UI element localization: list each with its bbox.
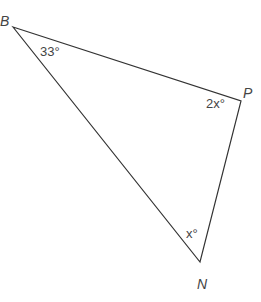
angle-label-p: 2x°	[206, 96, 225, 111]
triangle-diagram: B P N 33° 2x° x°	[0, 0, 261, 302]
angle-label-b: 33°	[40, 44, 60, 59]
vertex-label-n: N	[197, 276, 208, 292]
triangle-bpn	[13, 27, 241, 262]
vertex-label-b: B	[0, 13, 9, 29]
vertex-label-p: P	[243, 85, 253, 101]
angle-label-n: x°	[186, 226, 198, 241]
